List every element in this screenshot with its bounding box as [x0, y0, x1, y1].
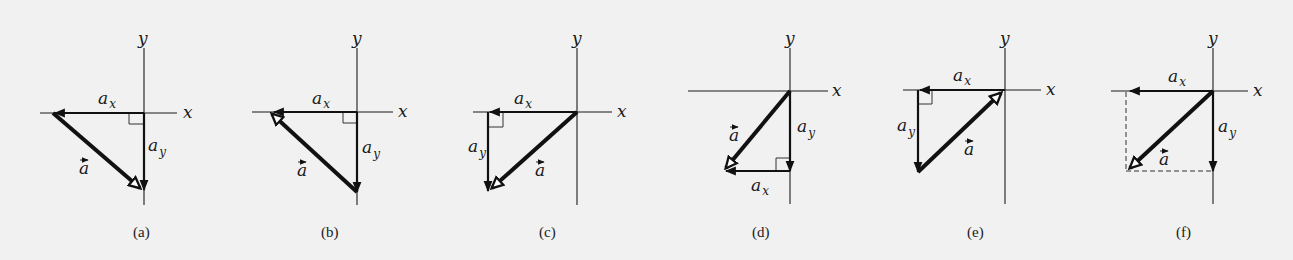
right-angle-mark: [776, 158, 790, 171]
vector-a-label: a: [964, 139, 974, 159]
caption-c: (c): [539, 224, 556, 241]
panel-b: x y ax ay a (b): [252, 28, 408, 241]
x-axis-label: x: [1046, 79, 1056, 99]
right-angle-mark: [488, 112, 503, 127]
svg-text:a: a: [79, 158, 89, 178]
vector-a-arrow: [918, 93, 1001, 172]
panel-c: x y ax ay a (c): [468, 28, 627, 241]
ax-label: ax: [98, 88, 116, 111]
panel-a: x y ax ay a (a): [40, 28, 193, 241]
ay-label: ay: [362, 137, 380, 161]
ay-label: ay: [897, 115, 915, 139]
panel-e: x y ax ay a (e): [897, 28, 1056, 241]
panel-f: x y ax ay a (f): [1111, 28, 1263, 241]
y-axis-label: y: [571, 28, 582, 48]
ax-label: ax: [312, 88, 330, 111]
vector-component-figure: x y ax ay a (a) x y ax ay a (b) x: [0, 0, 1293, 260]
x-axis-label: x: [398, 101, 408, 121]
figure-canvas: x y ax ay a (a) x y ax ay a (b) x: [0, 0, 1293, 260]
x-axis-label: x: [183, 102, 193, 122]
ax-label: ax: [514, 88, 532, 111]
x-axis-label: x: [832, 80, 842, 100]
vector-a-label: a: [1159, 149, 1169, 169]
y-axis-label: y: [1207, 28, 1218, 48]
vector-a-arrow: [272, 114, 357, 192]
caption-d: (d): [752, 224, 770, 241]
y-axis-label: y: [351, 28, 362, 48]
ay-label: ay: [148, 135, 166, 159]
vector-a-label: a: [535, 160, 545, 180]
ax-label: ax: [1168, 66, 1186, 89]
ay-label: ay: [1218, 116, 1236, 140]
vector-a-label: a: [79, 158, 89, 178]
panel-d: x y ax ay a (d): [688, 28, 842, 241]
right-angle-mark: [918, 90, 932, 104]
right-angle-mark: [129, 113, 144, 124]
ax-label: ax: [953, 65, 971, 88]
caption-f: (f): [1176, 224, 1191, 241]
y-axis-label: y: [999, 28, 1010, 48]
y-axis-label: y: [137, 28, 148, 48]
svg-text:a: a: [297, 160, 307, 180]
svg-text:a: a: [535, 160, 545, 180]
ax-label: ax: [751, 175, 769, 198]
right-angle-mark: [343, 112, 357, 123]
x-axis-label: x: [1253, 80, 1263, 100]
vector-a-label: a: [297, 160, 307, 180]
vector-a-label: a: [729, 125, 739, 145]
y-axis-label: y: [784, 28, 795, 48]
caption-a: (a): [133, 224, 150, 241]
svg-text:a: a: [1159, 149, 1169, 169]
x-axis-label: x: [617, 101, 627, 121]
vector-a-arrow: [53, 113, 140, 188]
svg-text:a: a: [729, 125, 739, 145]
caption-b: (b): [321, 224, 339, 241]
svg-text:a: a: [964, 139, 974, 159]
ay-label: ay: [468, 136, 486, 160]
ay-label: ay: [797, 116, 815, 140]
vector-a-arrow: [1130, 91, 1213, 168]
caption-e: (e): [967, 224, 984, 241]
